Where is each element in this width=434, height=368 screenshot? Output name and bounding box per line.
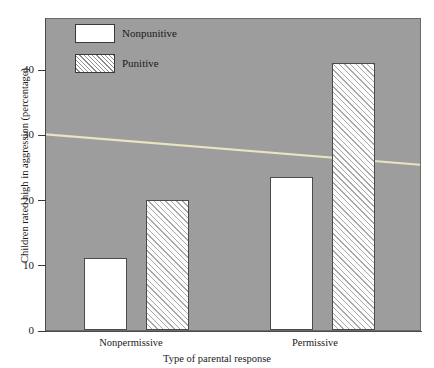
legend: Nonpunitive Punitive [75, 24, 225, 84]
y-tick-mark-20 [38, 200, 46, 201]
x-axis-line [45, 331, 422, 332]
legend-item-punitive: Punitive [75, 54, 225, 73]
bar-permissive-punitive[interactable] [332, 63, 375, 330]
bar-permissive-nonpunitive[interactable] [270, 177, 313, 330]
solid-white-swatch-icon [75, 24, 115, 43]
hatched-swatch-icon [75, 54, 115, 73]
x-category-label-nonpermissive: Nonpermissive [56, 337, 206, 348]
y-tick-mark-10 [38, 265, 46, 266]
x-category-label-permissive: Permissive [240, 337, 390, 348]
y-tick-mark-40 [38, 70, 46, 71]
legend-label-punitive: Punitive [122, 58, 159, 69]
legend-label-nonpunitive: Nonpunitive [122, 28, 177, 39]
bar-nonpermissive-punitive[interactable] [146, 200, 189, 330]
y-tick-mark-0 [38, 331, 46, 332]
bar-nonpermissive-nonpunitive[interactable] [84, 258, 127, 330]
legend-item-nonpunitive: Nonpunitive [75, 24, 225, 43]
y-tick-mark-30 [38, 135, 46, 136]
x-axis-title: Type of parental response [0, 353, 434, 364]
y-axis-line [45, 18, 46, 331]
bar-chart-figure: Nonpunitive Punitive 403020100 Children … [0, 0, 434, 368]
y-tick-label-0: 0 [0, 325, 34, 336]
y-axis-title: Children rated high in aggression (perce… [19, 36, 30, 296]
